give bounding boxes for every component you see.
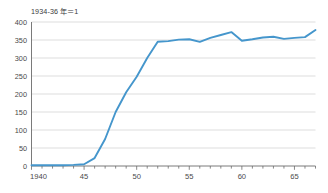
line-chart-plot: 050100150200250300350400 19404550556065 <box>0 0 328 193</box>
y-axis-tick-label: 400 <box>15 18 27 27</box>
y-axis-tick-label: 250 <box>15 72 27 81</box>
x-axis-tick-label: 45 <box>80 172 88 181</box>
data-series-line <box>32 30 316 165</box>
x-axis-tick-label: 50 <box>132 172 140 181</box>
x-axis-tick-labels: 19404550556065 <box>30 172 299 181</box>
y-axis-tick-label: 50 <box>19 144 27 153</box>
chart-container: 1934-36 年＝1 050100150200250300350400 194… <box>0 0 328 193</box>
y-axis-tick-label: 0 <box>23 162 27 171</box>
x-axis-tick-label: 1940 <box>30 172 47 181</box>
x-axis-tick-label: 55 <box>185 172 193 181</box>
y-axis-tick-label: 150 <box>15 108 27 117</box>
y-axis-tick-label: 100 <box>15 126 27 135</box>
y-axis-tick-label: 200 <box>15 90 27 99</box>
y-axis-tick-labels: 050100150200250300350400 <box>15 18 27 171</box>
x-axis-tick-label: 60 <box>238 172 246 181</box>
y-axis-tick-label: 300 <box>15 54 27 63</box>
y-axis-tick-label: 350 <box>15 36 27 45</box>
x-axis-tick-marks <box>32 166 316 170</box>
x-axis-tick-label: 65 <box>290 172 298 181</box>
